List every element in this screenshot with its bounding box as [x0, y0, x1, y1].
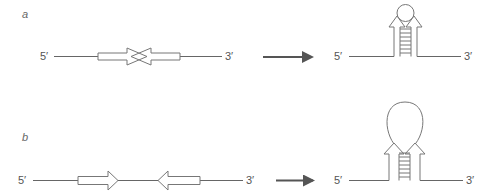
stem-arm-left-icon — [389, 16, 405, 57]
three-prime-label: 3′ — [464, 50, 472, 62]
hairpin-loop-icon — [387, 102, 423, 149]
forward-repeat-arrow-icon — [98, 48, 147, 65]
panel-a-before: 5′ 3′ — [40, 48, 233, 65]
stem-arm-right-icon — [406, 16, 422, 57]
three-prime-label: 3′ — [246, 174, 254, 186]
base-pair-rungs — [400, 29, 411, 53]
five-prime-label: 5′ — [18, 174, 26, 186]
reverse-repeat-arrow-icon — [158, 171, 200, 190]
panel-b-hairpin: 5′ 3′ — [334, 102, 474, 186]
five-prime-label: 5′ — [334, 174, 342, 186]
panel-a-hairpin: 5′ 3′ — [334, 5, 472, 63]
five-prime-label: 5′ — [334, 50, 342, 62]
three-prime-label: 3′ — [466, 174, 474, 186]
forward-repeat-arrow-icon — [78, 171, 118, 190]
panel-b-before: 5′ 3′ — [18, 171, 254, 190]
panel-label-b: b — [22, 131, 28, 143]
panel-a: a 5′ 3′ 5′ 3′ — [22, 5, 472, 66]
panel-label-a: a — [22, 8, 28, 20]
panel-b: b 5′ 3′ 5′ 3′ — [18, 102, 474, 190]
diagram-canvas: a 5′ 3′ 5′ 3′ — [0, 0, 489, 196]
five-prime-label: 5′ — [40, 50, 48, 62]
three-prime-label: 3′ — [225, 50, 233, 62]
base-pair-rungs — [399, 153, 410, 177]
